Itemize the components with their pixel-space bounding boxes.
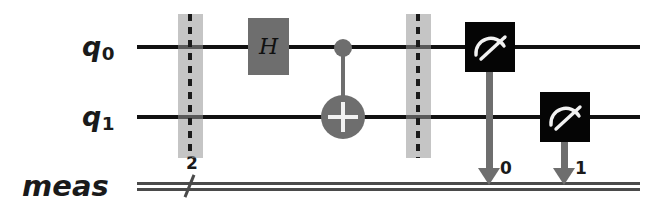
wire-label-q1-subscript: 1 (102, 113, 115, 134)
meter-icon (540, 92, 590, 142)
wire-label-q0: q0 (82, 33, 114, 60)
barrier-dashed-line-icon (416, 14, 420, 158)
hadamard-gate-label: H (259, 36, 278, 58)
wire-label-q0-subscript: 0 (102, 43, 115, 64)
wire-label-q1-text: q (82, 101, 101, 132)
quantum-wire-q0 (137, 45, 640, 49)
cnot-target-plus-icon[interactable] (321, 95, 365, 139)
hadamard-gate[interactable]: H (248, 18, 289, 75)
wire-label-q0-text: q (82, 31, 101, 62)
measure-q0-classical-feed-line (486, 68, 493, 172)
barrier-dashed-line-icon (188, 14, 192, 158)
barrier-2 (406, 14, 431, 158)
cnot-control-dot-icon[interactable] (334, 39, 352, 57)
meter-icon (465, 22, 515, 72)
quantum-circuit-diagram: q0 q1 meas 2 H 0 1 (0, 0, 668, 214)
wire-label-meas: meas (22, 172, 109, 201)
measure-q0-arrow-icon (478, 168, 500, 185)
barrier-1 (178, 14, 203, 158)
cnot-target-plus-horizontal (328, 115, 358, 119)
measure-q1-classical-feed-line (561, 138, 568, 172)
measure-gate-q1[interactable] (540, 92, 590, 142)
measure-gate-q0[interactable] (465, 22, 515, 72)
measure-q1-creg-index-label: 1 (575, 160, 587, 177)
measure-q1-arrow-icon (553, 168, 575, 185)
measure-q0-creg-index-label: 0 (500, 160, 512, 177)
wire-label-q1: q1 (82, 103, 114, 130)
